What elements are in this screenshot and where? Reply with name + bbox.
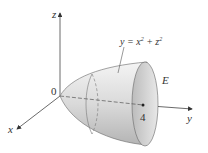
region-label: E: [162, 75, 169, 86]
end-ellipse: [132, 62, 158, 146]
y-axis: [158, 107, 192, 110]
equation-z-exp: 2: [159, 36, 162, 42]
diagram-graphic: [0, 0, 208, 153]
x-axis: [17, 96, 60, 129]
origin-label: 0: [51, 86, 57, 97]
surface-equation: y = x2 + z2: [120, 36, 162, 47]
tick-label-4: 4: [140, 112, 146, 123]
paraboloid-diagram: z x y 0 4 E y = x2 + z2: [0, 0, 208, 153]
equation-lhs: y = x: [120, 36, 141, 47]
x-axis-label: x: [8, 124, 13, 135]
y-axis-label: y: [187, 113, 192, 124]
equation-plus: + z: [144, 36, 160, 47]
tick-point-4: [142, 104, 145, 107]
z-axis-label: z: [52, 9, 56, 20]
